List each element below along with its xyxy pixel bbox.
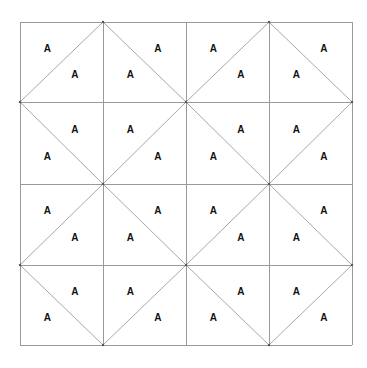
triangle-label: A bbox=[71, 232, 78, 243]
triangle-label: A bbox=[237, 232, 244, 243]
cell-diagonal bbox=[103, 184, 186, 265]
triangle-label: A bbox=[44, 151, 51, 162]
cell-diagonal bbox=[186, 184, 269, 265]
cell-diagonal bbox=[103, 265, 186, 345]
vertex-dot bbox=[102, 344, 104, 346]
cell-diagonal bbox=[103, 102, 186, 184]
cell-diagonal bbox=[186, 265, 269, 345]
triangle-label: A bbox=[210, 312, 217, 323]
triangle-label: A bbox=[210, 151, 217, 162]
cell-diagonal bbox=[186, 102, 269, 184]
triangle-label: A bbox=[44, 43, 51, 54]
triangle-label: A bbox=[71, 69, 78, 80]
triangle-label: A bbox=[237, 124, 244, 135]
vertex-dot bbox=[185, 101, 187, 103]
triangle-label: A bbox=[320, 205, 327, 216]
triangle-label: A bbox=[320, 43, 327, 54]
cell-diagonal bbox=[269, 265, 352, 345]
cell-diagonal bbox=[20, 102, 103, 184]
vertex-dot bbox=[102, 21, 104, 23]
vertex-dot bbox=[19, 101, 21, 103]
triangle-label: A bbox=[71, 124, 78, 135]
cell-diagonal bbox=[20, 184, 103, 265]
cell-diagonal bbox=[103, 22, 186, 102]
triangle-label: A bbox=[127, 286, 134, 297]
vertex-dot bbox=[268, 344, 270, 346]
vertex-dot bbox=[185, 264, 187, 266]
triangle-label: A bbox=[237, 286, 244, 297]
cell-diagonal bbox=[20, 265, 103, 345]
triangle-label: A bbox=[237, 69, 244, 80]
triangle-grid-diagram: AAAAAAAAAAAAAAAAAAAAAAAAAAAAAAAA bbox=[0, 0, 367, 368]
cell-diagonal bbox=[269, 184, 352, 265]
vertex-dot bbox=[351, 264, 353, 266]
vertex-dot bbox=[102, 183, 104, 185]
triangle-label: A bbox=[127, 232, 134, 243]
cell-diagonal bbox=[20, 22, 103, 102]
vertex-dot bbox=[351, 101, 353, 103]
triangle-label: A bbox=[44, 205, 51, 216]
vertex-dot bbox=[268, 21, 270, 23]
grid-lines bbox=[20, 22, 353, 346]
cell-diagonal bbox=[269, 22, 352, 102]
triangle-label: A bbox=[320, 312, 327, 323]
triangle-label: A bbox=[293, 286, 300, 297]
triangle-label: A bbox=[210, 205, 217, 216]
triangle-label: A bbox=[293, 69, 300, 80]
triangle-label: A bbox=[154, 205, 161, 216]
triangle-label: A bbox=[210, 43, 217, 54]
triangle-label: A bbox=[293, 124, 300, 135]
cell-diagonal bbox=[186, 22, 269, 102]
triangle-label: A bbox=[154, 43, 161, 54]
triangle-label: A bbox=[71, 286, 78, 297]
vertex-dot bbox=[268, 183, 270, 185]
triangle-label: A bbox=[154, 312, 161, 323]
cell-diagonal bbox=[269, 102, 352, 184]
triangle-label: A bbox=[127, 124, 134, 135]
triangle-label: A bbox=[127, 69, 134, 80]
vertex-dot bbox=[19, 264, 21, 266]
triangle-label: A bbox=[320, 151, 327, 162]
triangle-label: A bbox=[154, 151, 161, 162]
cell-labels: AAAAAAAAAAAAAAAAAAAAAAAAAAAAAAAA bbox=[44, 43, 328, 323]
triangle-label: A bbox=[44, 312, 51, 323]
triangle-label: A bbox=[293, 232, 300, 243]
